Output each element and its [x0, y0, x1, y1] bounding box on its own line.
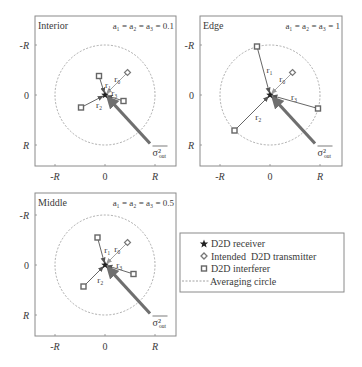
x-tick-label: R [316, 171, 323, 182]
y-tick-label: R [22, 140, 29, 151]
interferer-square-icon [131, 272, 136, 277]
x-tick-label: -R [50, 171, 59, 182]
x-tick-label: -R [215, 171, 224, 182]
x-tick-label: R [151, 171, 158, 182]
r2-label: r₂ [96, 100, 102, 110]
y-tick-label: 0 [24, 90, 29, 101]
x-tick-label: 0 [103, 171, 108, 182]
sigma-out-arrow [275, 100, 315, 144]
x-tick-label: R [151, 341, 158, 352]
r1-label: r₁ [104, 245, 110, 255]
r3-label: r₃ [116, 260, 122, 270]
panel-param: a₁ = a₂ = a₃ = 0.1 [113, 21, 174, 31]
y-tick-label: -R [20, 210, 29, 221]
legend-label: D2D interferer [211, 263, 271, 274]
interferer-square-icon [79, 105, 84, 110]
square-icon [202, 266, 207, 271]
r3-label: r₃ [291, 92, 297, 102]
interferer-square-icon [121, 99, 126, 104]
panel-edge: Edge a₁ = a₂ = a₃ = 1 -R0R-R0Rr₀r₁r₂r₃σ²… [185, 16, 342, 182]
legend: D2D receiver Intended D2D transmitter D2… [180, 233, 344, 292]
r1-label: r₁ [267, 65, 273, 75]
y-tick-label: -R [185, 40, 194, 51]
panel-interior: Interior a₁ = a₂ = a₃ = 0.1 -R0R-R0Rr₀r₁… [20, 16, 176, 182]
legend-label: D2D receiver [211, 238, 266, 249]
x-tick-label: 0 [103, 341, 108, 352]
interferer-square-icon [232, 128, 237, 133]
interferer-square-icon [97, 74, 102, 79]
legend-label: Averaging circle [210, 276, 277, 287]
legend-item-interferer: D2D interferer [202, 263, 271, 274]
sigma-out-subscript: out [324, 153, 332, 159]
y-tick-label: -R [20, 40, 29, 51]
r2-label: r₂ [97, 275, 103, 285]
legend-label: Intended D2D transmitter [211, 251, 317, 262]
y-tick-label: 0 [24, 260, 29, 271]
diagram-canvas: Interior a₁ = a₂ = a₃ = 0.1 -R0R-R0Rr₀r₁… [0, 0, 362, 367]
panel-param: a₁ = a₂ = a₃ = 1 [285, 21, 340, 31]
interferer-square-icon [95, 235, 100, 240]
x-tick-label: 0 [268, 171, 273, 182]
y-tick-label: R [22, 310, 29, 321]
r1-label: r₁ [105, 80, 111, 90]
r0-label: r₀ [114, 244, 120, 254]
y-tick-label: R [187, 140, 194, 151]
sigma-out-arrow [110, 100, 150, 144]
panel-param: a₁ = a₂ = a₃ = 0.5 [113, 198, 175, 208]
panel-title: Interior [38, 20, 69, 31]
panel-frame [200, 16, 342, 166]
r0-label: r₀ [279, 74, 285, 84]
interferer-link [235, 97, 269, 131]
r2-label: r₂ [255, 112, 261, 122]
r3-label: r₃ [111, 88, 117, 98]
panel-title: Middle [38, 197, 67, 208]
sigma-out-subscript: out [159, 323, 167, 329]
sigma-out-arrow [110, 270, 150, 314]
legend-item-transmitter: Intended D2D transmitter [201, 251, 317, 262]
panel-middle: Middle a₁ = a₂ = a₃ = 0.5 -R0R-R0Rr₀r₁r₂… [20, 193, 176, 352]
y-tick-label: 0 [189, 90, 194, 101]
interferer-square-icon [81, 284, 86, 289]
panel-frame [35, 16, 176, 166]
r0-label: r₀ [114, 74, 120, 84]
x-tick-label: -R [50, 341, 59, 352]
sigma-out-subscript: out [159, 153, 167, 159]
panel-title: Edge [203, 20, 224, 31]
interferer-square-icon [255, 44, 260, 49]
interferer-square-icon [316, 106, 321, 111]
